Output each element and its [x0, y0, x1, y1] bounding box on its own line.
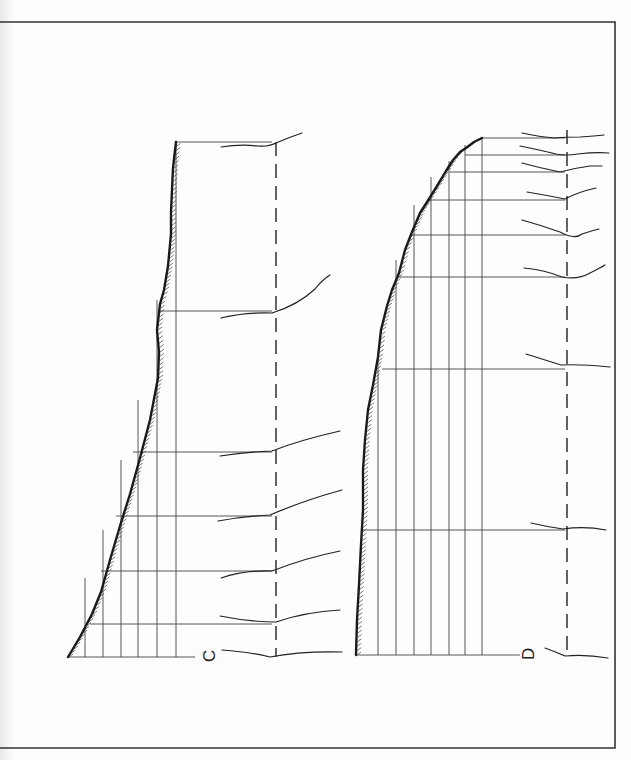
panel-c: C — [68, 133, 342, 662]
branch-whorl — [522, 163, 602, 172]
branch-whorl — [545, 648, 608, 658]
branch-whorl — [221, 133, 302, 147]
branch-whorl — [522, 220, 599, 237]
panel-d: D — [356, 130, 610, 660]
stem-profile-outline — [356, 138, 482, 655]
panel-label: C — [200, 650, 219, 662]
branch-whorl — [520, 146, 609, 155]
branch-whorl — [531, 523, 606, 530]
branch-whorl — [527, 188, 596, 199]
stem-profile-diagram: C D — [0, 0, 631, 760]
branch-whorl — [524, 265, 605, 278]
figure-frame — [0, 22, 615, 748]
profile-hatching — [69, 143, 181, 657]
branch-whorl — [221, 551, 340, 578]
branch-whorl — [222, 650, 342, 657]
panel-label: D — [519, 648, 538, 660]
branch-whorl — [522, 133, 604, 138]
stem-profile-outline — [68, 142, 176, 657]
branch-whorl — [526, 354, 610, 367]
figure-page: C D — [0, 0, 631, 760]
frame-border — [0, 22, 615, 748]
branch-whorl — [220, 610, 340, 622]
